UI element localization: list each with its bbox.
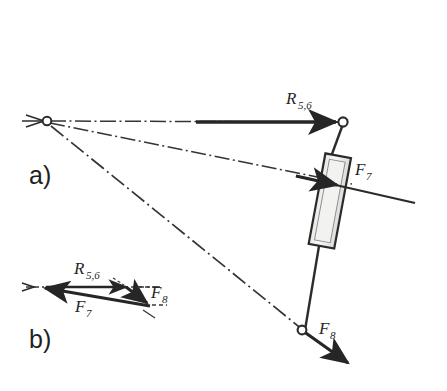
label-r56-a: R <box>285 89 297 108</box>
label-f8-a-sub: 8 <box>330 329 336 341</box>
label-f7-a: F <box>354 160 366 179</box>
label-f7-b: F <box>74 297 86 316</box>
label-r56-a-sub: 5,6 <box>298 99 312 111</box>
label-f8-b-sub: 8 <box>162 293 168 305</box>
pivot-joint-bottom <box>298 326 307 335</box>
label-f7-a-sub: 7 <box>366 170 372 182</box>
panel-tag-a: a) <box>29 161 51 189</box>
label-f8-b: F <box>150 283 162 302</box>
figure-root: R 5,6 F 7 F 8 a) <box>0 0 447 391</box>
pivot-joint-left <box>43 117 52 126</box>
technical-drawing-canvas: R 5,6 F 7 F 8 a) <box>0 0 447 391</box>
label-f8-a: F <box>318 319 330 338</box>
label-r56-b-sub: 5,6 <box>86 269 100 281</box>
label-r56-b: R <box>73 259 85 278</box>
panel-tag-b: b) <box>29 325 51 353</box>
pivot-joint-right <box>338 117 347 126</box>
label-f7-b-sub: 7 <box>86 307 92 319</box>
